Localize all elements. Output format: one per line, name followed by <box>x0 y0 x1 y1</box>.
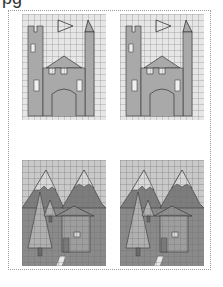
grid-overlay <box>120 160 204 266</box>
keep-window-left <box>34 80 39 91</box>
left-tower <box>28 26 43 116</box>
keep-window-right <box>175 80 180 91</box>
castle-drawing <box>120 14 204 120</box>
castle-panel-copy <box>120 14 204 120</box>
right-tower <box>85 32 94 116</box>
page-title: pg <box>2 0 22 9</box>
mountain-house-panel-copy <box>120 160 204 266</box>
left-tower <box>126 26 141 116</box>
mountain-house-panel-original <box>22 160 106 266</box>
right-tower <box>183 32 192 116</box>
grid-overlay <box>22 160 106 266</box>
mountain-house-drawing <box>22 160 106 266</box>
castle-gate <box>150 89 174 116</box>
castle-panel-original <box>22 14 106 120</box>
castle-gate <box>52 89 76 116</box>
tower-window <box>129 44 133 52</box>
tower-window <box>31 44 35 52</box>
castle-drawing <box>22 14 106 120</box>
mountain-house-drawing <box>120 160 204 266</box>
keep-window-left <box>132 80 137 91</box>
keep-window-right <box>77 80 82 91</box>
